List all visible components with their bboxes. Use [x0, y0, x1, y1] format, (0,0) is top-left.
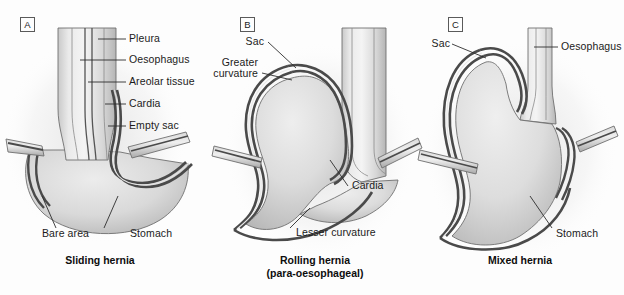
label-empty-sac-a: Empty sac	[129, 120, 179, 132]
label-cardia-a: Cardia	[129, 98, 161, 110]
panel-letter-a: A	[20, 17, 35, 32]
panel-c-artwork	[418, 28, 618, 260]
label-stomach-c: Stomach	[556, 228, 598, 240]
label-sac-b: Sac	[206, 36, 264, 48]
caption-panel-a: Sliding hernia	[0, 254, 200, 267]
hiatal-hernia-figure: A Pleura Oesophagus Areolar tissue Cardi…	[0, 0, 624, 295]
caption-panel-c: Mixed hernia	[440, 254, 600, 267]
panel-letter-b: B	[240, 17, 255, 32]
figure-artwork	[0, 0, 624, 295]
label-bare-area-a: Bare area	[42, 228, 89, 240]
label-stomach-a: Stomach	[130, 228, 172, 240]
label-cardia-b: Cardia	[352, 180, 384, 192]
label-areolar-tissue-a: Areolar tissue	[129, 76, 195, 88]
caption-panel-b-line2: (para-oesophageal)	[225, 267, 405, 280]
label-pleura-a: Pleura	[129, 33, 160, 45]
label-lesser-curvature-b: Lesser curvature	[296, 227, 376, 239]
label-sac-c: Sac	[408, 38, 450, 50]
label-greater-curvature-b-line2: curvature	[186, 68, 258, 80]
label-oesophagus-c: Oesophagus	[561, 41, 622, 53]
label-oesophagus-a: Oesophagus	[129, 54, 190, 66]
panel-letter-c: C	[448, 17, 463, 32]
caption-panel-b-line1: Rolling hernia	[225, 254, 405, 267]
